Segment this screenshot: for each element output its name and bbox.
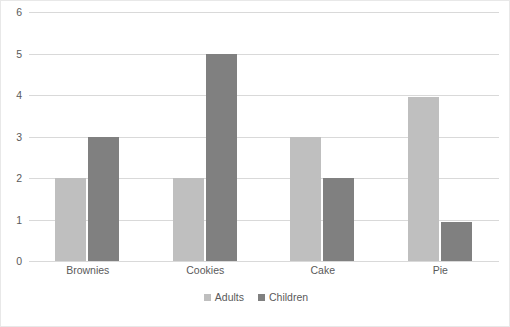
- bar-cake-adults: [290, 137, 321, 262]
- y-axis-tick-label: 5: [16, 48, 22, 59]
- legend-item-children[interactable]: Children: [258, 292, 308, 303]
- y-axis-tick-label: 4: [16, 90, 22, 101]
- y-axis-tick-label: 1: [16, 214, 22, 225]
- bar-pie-adults: [408, 97, 439, 261]
- bar-cookies-children: [206, 54, 237, 262]
- y-axis-tick-label: 6: [16, 7, 22, 18]
- x-axis-label-cake: Cake: [264, 265, 382, 276]
- x-axis-label-brownies: Brownies: [29, 265, 147, 276]
- bar-pie-children: [441, 222, 472, 261]
- bar-group: [147, 12, 265, 261]
- legend-label: Adults: [215, 292, 244, 303]
- x-axis-labels: BrowniesCookiesCakePie: [29, 265, 499, 281]
- y-axis-tick-label: 0: [16, 256, 22, 267]
- bars-layer: [29, 12, 499, 261]
- legend-swatch-icon: [204, 294, 211, 301]
- y-axis-tick-label: 3: [16, 131, 22, 142]
- plot-area: 0123456: [29, 12, 499, 261]
- x-axis-label-pie: Pie: [382, 265, 500, 276]
- bar-brownies-adults: [55, 178, 86, 261]
- legend-swatch-icon: [258, 294, 265, 301]
- bar-chart-figure: 0123456 BrowniesCookiesCakePie AdultsChi…: [0, 0, 510, 327]
- bar-cake-children: [323, 178, 354, 261]
- y-axis-tick-label: 2: [16, 173, 22, 184]
- bar-group: [29, 12, 147, 261]
- bar-cookies-adults: [173, 178, 204, 261]
- legend-label: Children: [269, 292, 308, 303]
- bar-group: [382, 12, 500, 261]
- gridline-0: [29, 261, 499, 262]
- bar-brownies-children: [88, 137, 119, 262]
- bar-group: [264, 12, 382, 261]
- chart-legend: AdultsChildren: [1, 292, 510, 303]
- x-axis-label-cookies: Cookies: [147, 265, 265, 276]
- legend-item-adults[interactable]: Adults: [204, 292, 244, 303]
